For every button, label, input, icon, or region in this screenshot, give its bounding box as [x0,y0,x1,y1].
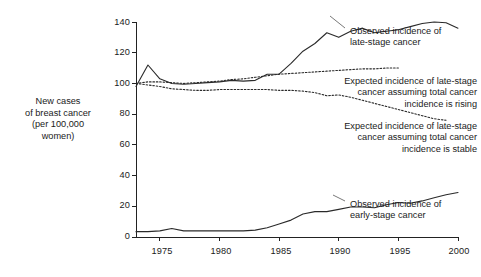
annotation-line: cancer assuming total cancer [313,87,477,98]
y-tick-label-140: 140 [100,17,130,27]
annotation-line: cancer assuming total cancer [313,132,477,143]
y-tick-label-0: 0 [100,231,130,241]
x-tick-label-1995: 1995 [380,246,420,256]
y-tick-label-20: 20 [100,200,130,210]
x-tick-label-1990: 1990 [320,246,360,256]
breast-cancer-incidence-chart: New cases of breast cancer (per 100,000 … [0,0,481,277]
x-tick-label-1985: 1985 [261,246,301,256]
x-tick-label-1975: 1975 [142,246,182,256]
leader-observed-late-stage [330,16,345,28]
annotation-observed-early-stage: Observed incidence of early-stage cancer [350,199,478,222]
annotation-line: incidence is rising [313,99,477,110]
annotation-line: late-stage cancer [350,37,478,48]
y-axis-title-line: women) [6,131,110,143]
y-tick-label-80: 80 [100,108,130,118]
y-tick-label-40: 40 [100,170,130,180]
annotation-line: Observed incidence of [350,26,478,37]
y-axis-title-line: of breast cancer [6,108,110,120]
annotation-line: early-stage cancer [350,210,478,221]
y-axis-title-line: New cases [6,96,110,108]
annotation-line: Observed incidence of [350,199,478,210]
annotation-line: Expected incidence of late-stage [313,76,477,87]
annotation-observed-late-stage: Observed incidence of late-stage cancer [350,26,478,49]
y-axis-title: New cases of breast cancer (per 100,000 … [6,96,110,142]
annotation-line: incidence is stable [313,144,477,155]
x-tick-label-2000: 2000 [439,246,479,256]
annotation-expected-stable: Expected incidence of late-stage cancer … [313,121,477,155]
y-tick-label-100: 100 [100,78,130,88]
annotation-line: Expected incidence of late-stage [313,121,477,132]
y-axis-ticks [132,22,136,237]
y-axis-title-line: (per 100,000 [6,119,110,131]
y-tick-label-120: 120 [100,47,130,57]
x-axis-ticks [160,237,458,241]
annotation-expected-rising: Expected incidence of late-stage cancer … [313,76,477,110]
leader-observed-early-stage [333,195,345,201]
y-tick-label-60: 60 [100,139,130,149]
x-tick-label-1980: 1980 [201,246,241,256]
